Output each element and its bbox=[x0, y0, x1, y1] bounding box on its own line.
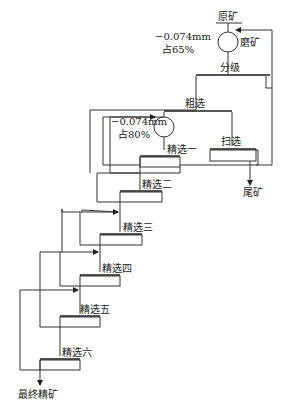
cleaner-2-label: 精选二 bbox=[142, 178, 172, 190]
regrind-pct-label: 占80% bbox=[118, 128, 150, 140]
final-concentrate-label: 最终精矿 bbox=[18, 388, 58, 400]
cleaner-3-label: 精选三 bbox=[123, 221, 153, 233]
rougher-label: 粗选 bbox=[185, 97, 205, 109]
tailings-label: 尾矿 bbox=[243, 186, 263, 198]
grind-size-label: −0.074mm bbox=[155, 31, 211, 42]
grind-pct-label: 占65% bbox=[162, 43, 194, 55]
cleaner-1-label: 精选一 bbox=[167, 143, 197, 155]
regrind-size-label: −0.074mm bbox=[111, 116, 167, 127]
cleaner-4-label: 精选四 bbox=[102, 262, 132, 274]
flowsheet-diagram: 原矿 磨矿 −0.074mm 占65% 分级 粗选 −0.074mm 占80% … bbox=[0, 0, 286, 415]
cleaner-5-label: 精选五 bbox=[80, 303, 110, 315]
scavenger-label: 扫选 bbox=[221, 135, 241, 147]
feed-label: 原矿 bbox=[218, 10, 238, 22]
flowsheet-svg: 原矿 磨矿 −0.074mm 占65% 分级 粗选 −0.074mm 占80% … bbox=[0, 0, 286, 415]
grinding-mill-icon bbox=[218, 32, 238, 52]
classification-label: 分级 bbox=[220, 62, 240, 73]
cleaner-6-label: 精选六 bbox=[62, 346, 92, 358]
grinding-label: 磨矿 bbox=[240, 36, 260, 48]
